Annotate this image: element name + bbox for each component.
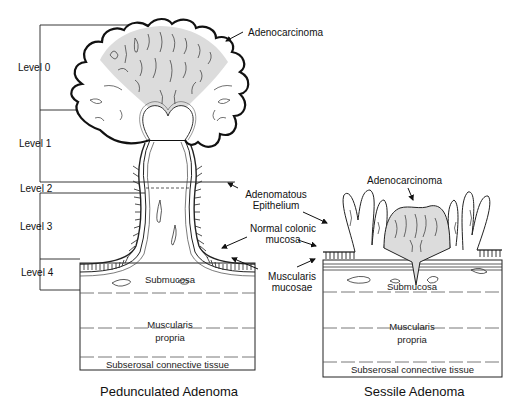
level-0-label: Level 0: [18, 62, 50, 73]
muscularis-mucosae-label-line2: mucosae: [252, 282, 332, 293]
level-1-label: Level 1: [19, 138, 51, 149]
muscularis-mucosae-label-line1: Muscularis: [252, 271, 332, 282]
adenomatous-label-line1: Adenomatous: [236, 189, 316, 200]
level-4-label: Level 4: [21, 267, 53, 278]
pedunculated-propria-label: propria: [130, 332, 210, 343]
sessile-subserosal-label: Subserosal connective tissue: [323, 364, 502, 375]
sessile-adenoma-caption: Sessile Adenoma: [364, 384, 464, 399]
sessile-propria-label: propria: [372, 334, 452, 345]
normal-mucosa-label-line1: Normal colonic: [238, 223, 328, 234]
sessile-muscularis-label: Muscularis: [372, 321, 452, 332]
pedunculated-adenoma-caption: Pedunculated Adenoma: [100, 384, 238, 399]
sessile-adenocarcinoma-label: Adenocarcinoma: [367, 175, 442, 186]
level-3-label: Level 3: [20, 221, 52, 232]
sessile-submucosa-label: Submucosa: [372, 281, 452, 292]
adenoma-diagram: Level 0 Level 1 Level 2 Level 3 Level 4 …: [0, 0, 517, 406]
normal-mucosa-label-line2: mucosa: [238, 234, 328, 245]
pedunculated-muscularis-label: Muscularis: [130, 319, 210, 330]
pedunculated-subserosal-label: Subserosal connective tissue: [80, 359, 255, 370]
pedunculated-adenocarcinoma-label: Adenocarcinoma: [248, 27, 323, 38]
adenomatous-label-line2: Epithelium: [236, 200, 316, 211]
level-2-label: Level 2: [20, 183, 52, 194]
pedunculated-adenoma-drawing: [71, 19, 255, 370]
pedunculated-submucosa-label: Submucosa: [130, 274, 210, 285]
